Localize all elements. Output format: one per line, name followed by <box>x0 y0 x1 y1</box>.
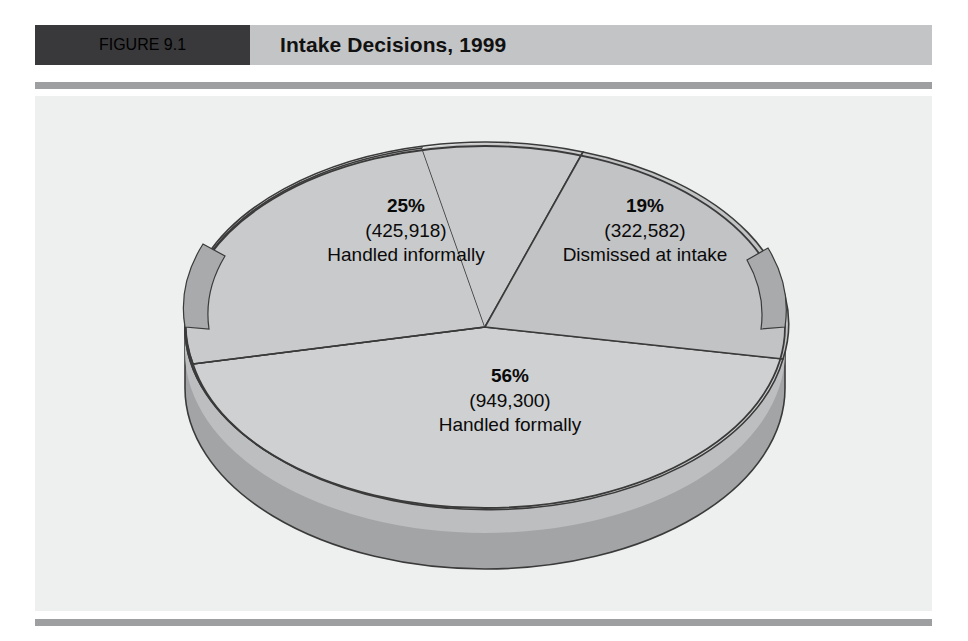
figure-header-bar: FIGURE 9.1 Intake Decisions, 1999 <box>35 25 932 65</box>
figure-number-label: FIGURE 9.1 <box>99 36 186 54</box>
footer-divider-rule <box>35 619 932 626</box>
pie-chart-3d <box>35 96 932 611</box>
chart-panel: 25% (425,918) Handled informally 19% (32… <box>35 96 932 611</box>
figure-container: FIGURE 9.1 Intake Decisions, 1999 <box>0 0 968 641</box>
header-divider-rule <box>35 82 932 89</box>
figure-title: Intake Decisions, 1999 <box>280 25 506 65</box>
figure-number-box: FIGURE 9.1 <box>35 25 250 65</box>
